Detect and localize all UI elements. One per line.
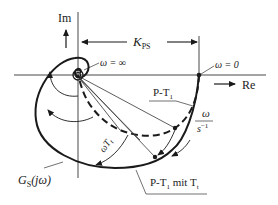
pt1-label: P-T1 xyxy=(153,86,174,101)
phase-shift-label: ωTt xyxy=(97,135,117,155)
rotation-arrow-1 xyxy=(158,130,175,155)
pt1-deadtime-label: P-T1 mit Tt xyxy=(150,176,199,191)
nyquist-diagram: Im Re KPS ω = ∞ ω = 0 P-T1 ω s−1 ωTt GS(… xyxy=(0,0,278,205)
rotation-arrow-3 xyxy=(48,110,93,122)
deadtime-point xyxy=(153,155,157,159)
omega-zero-point xyxy=(197,73,202,78)
omega-zero-leader xyxy=(201,66,214,74)
pt1-deadtime-curve xyxy=(36,58,199,168)
ray-3 xyxy=(79,78,140,140)
rotation-arrow-4 xyxy=(50,72,78,96)
pt1-deadtime-leader xyxy=(136,170,146,194)
imag-axis-label: Im xyxy=(58,11,72,25)
omega-infinity-leader xyxy=(84,63,99,70)
real-axis-label: Re xyxy=(242,78,255,92)
kps-label: KPS xyxy=(132,34,151,51)
pt1-curve xyxy=(78,75,199,136)
omega-infinity-label: ω = ∞ xyxy=(100,57,126,68)
frequency-unit-numerator: ω xyxy=(202,107,210,119)
pt1-point xyxy=(173,126,177,130)
transfer-function-leader xyxy=(44,162,63,168)
ray-4 xyxy=(79,78,120,130)
transfer-function-label: GS(jω) xyxy=(18,173,51,189)
omega-zero-label: ω = 0 xyxy=(215,59,239,70)
ray-1 xyxy=(80,77,175,128)
frequency-unit-denominator: s−1 xyxy=(197,122,209,134)
pt1-leader xyxy=(176,101,193,106)
